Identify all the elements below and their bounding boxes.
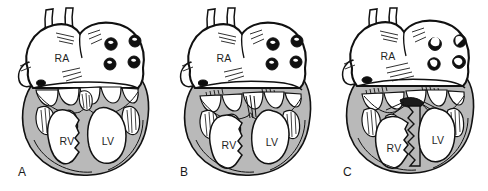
chamber-label-rv: RV (60, 135, 75, 147)
chamber-label-lv: LV (102, 135, 115, 147)
right-atrium-a (26, 23, 144, 88)
right-atrium-b (188, 23, 306, 88)
right-atrium-c (350, 21, 469, 86)
chamber-label-rv: RV (222, 139, 237, 151)
panel-c: RA RV LV C (324, 0, 488, 191)
chamber-label-ra: RA (54, 52, 69, 64)
panel-label-c: C (343, 166, 352, 178)
chamber-label-rv: RV (387, 142, 402, 154)
chamber-label-lv: LV (266, 136, 279, 148)
chamber-label-lv: LV (432, 134, 445, 146)
panel-label-a: A (18, 166, 26, 178)
panel-a: RA RV LV A (0, 0, 163, 191)
chamber-label-ra: RA (380, 50, 395, 62)
panel-label-b: B (180, 166, 188, 178)
panel-b: RA RV LV B (162, 0, 325, 191)
chamber-label-ra: RA (216, 52, 231, 64)
heart-cross-section-figure: RA RV LV A (0, 0, 488, 191)
